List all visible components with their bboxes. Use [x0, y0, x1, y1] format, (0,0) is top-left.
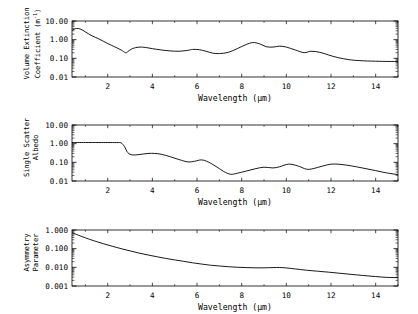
- x-axis-tick-label: 10: [282, 186, 292, 195]
- y-axis-tick-label: 10.00: [45, 121, 68, 130]
- x-axis-title: Wavelength (µm): [198, 197, 272, 207]
- x-axis-tick-label: 4: [150, 82, 155, 91]
- plot-area-panel-0: 246810121410.001.000.100.01Wavelength (µ…: [0, 0, 418, 105]
- x-axis-tick-label: 4: [150, 291, 155, 300]
- x-axis-tick-label: 6: [195, 291, 200, 300]
- x-axis-tick-label: 10: [282, 82, 292, 91]
- y-axis-tick-label: 1.00: [50, 139, 69, 148]
- y-axis-tick-label: 0.100: [45, 244, 68, 253]
- x-axis-tick-label: 14: [371, 186, 381, 195]
- y-axis-tick-label: 0.10: [50, 158, 69, 167]
- data-series-line: [72, 143, 398, 175]
- plot-area-panel-2: 24681012141.0000.1000.0100.001Wavelength…: [0, 209, 418, 314]
- y-axis-tick-label: 1.000: [45, 226, 68, 235]
- x-axis-tick-label: 2: [105, 82, 110, 91]
- x-axis-tick-label: 12: [326, 291, 335, 300]
- figure-root: Volume Extinction Coefficient (m-1) 2468…: [0, 0, 418, 314]
- x-axis-tick-label: 6: [195, 186, 200, 195]
- data-series-line: [72, 233, 398, 278]
- y-axis-tick-label: 0.01: [50, 177, 69, 186]
- y-axis-tick-label: 1.00: [50, 35, 69, 44]
- x-axis-title: Wavelength (µm): [198, 302, 272, 312]
- x-axis-tick-label: 8: [239, 291, 244, 300]
- x-axis-tick-label: 14: [371, 291, 381, 300]
- chart-panel-volume-extinction-coefficient: Volume Extinction Coefficient (m-1) 2468…: [0, 0, 418, 105]
- x-axis-tick-label: 8: [239, 82, 244, 91]
- chart-panel-asymmetry-parameter: Asymmetry Parameter 24681012141.0000.100…: [0, 209, 418, 314]
- plot-area-panel-1: 246810121410.001.000.100.01Wavelength (µ…: [0, 104, 418, 209]
- x-axis-tick-label: 12: [326, 186, 335, 195]
- x-axis-tick-label: 2: [105, 291, 110, 300]
- x-axis-tick-label: 14: [371, 82, 381, 91]
- x-axis-title: Wavelength (µm): [198, 93, 272, 103]
- y-axis-tick-label: 0.01: [50, 73, 69, 82]
- x-axis-tick-label: 4: [150, 186, 155, 195]
- data-series-line: [72, 28, 398, 61]
- chart-panel-single-scatter-albedo: Single Scatter Albedo 246810121410.001.0…: [0, 104, 418, 209]
- x-axis-tick-label: 2: [105, 186, 110, 195]
- x-axis-tick-label: 10: [282, 291, 292, 300]
- x-axis-tick-label: 12: [326, 82, 335, 91]
- x-axis-tick-label: 8: [239, 186, 244, 195]
- y-axis-tick-label: 0.010: [45, 263, 68, 272]
- y-axis-tick-label: 10.00: [45, 17, 68, 26]
- x-axis-tick-label: 6: [195, 82, 200, 91]
- y-axis-tick-label: 0.001: [45, 282, 68, 291]
- y-axis-tick-label: 0.10: [50, 54, 69, 63]
